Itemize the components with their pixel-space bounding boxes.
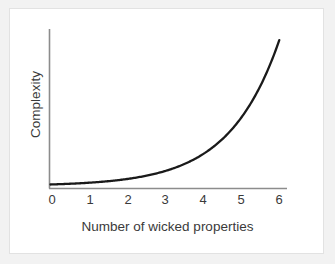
x-tick-label-0: 0 <box>42 192 62 207</box>
x-tick-label-6: 6 <box>269 192 289 207</box>
x-axis-title: Number of wicked properties <box>10 219 325 234</box>
x-tick-label-5: 5 <box>231 192 251 207</box>
x-tick-label-2: 2 <box>118 192 138 207</box>
y-axis-title: Complexity <box>28 60 43 150</box>
x-tick-label-3: 3 <box>155 192 175 207</box>
x-tick-label-4: 4 <box>193 192 213 207</box>
chart-card: 0 1 2 3 4 5 6 Number of wicked propertie… <box>9 8 324 254</box>
x-tick-label-1: 1 <box>80 192 100 207</box>
exponential-data-curve <box>51 40 280 184</box>
